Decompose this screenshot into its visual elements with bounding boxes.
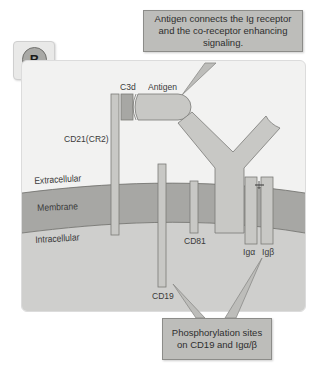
antigen-shape <box>135 94 191 120</box>
label-membrane: Membrane <box>37 200 78 213</box>
ig-alpha-rod <box>245 177 257 244</box>
label-ig-alpha: Igα <box>243 246 255 257</box>
bottom-callout-pointer-igab <box>225 258 262 318</box>
label-antigen: Antigen <box>148 81 177 92</box>
top-callout-pointer <box>182 63 216 95</box>
label-cd19: CD19 <box>152 290 174 301</box>
cd81-rod <box>190 181 198 233</box>
label-ig-beta: Igβ <box>262 246 274 257</box>
label-c3d: C3d <box>120 81 136 92</box>
label-cd81: CD81 <box>184 235 206 246</box>
cd21-rod <box>111 94 119 235</box>
cd19-rod <box>158 164 166 287</box>
top-callout-text: Antigen connects the Ig receptor and the… <box>144 13 302 49</box>
bottom-callout-pointer-cd19 <box>173 284 205 318</box>
label-cd21: CD21(CR2) <box>64 133 109 144</box>
c3d-block <box>121 94 133 120</box>
ig-beta-rod <box>261 177 273 244</box>
bottom-callout-text: Phosphorylation sites on CD19 and Igα/β <box>163 327 271 351</box>
top-callout: Antigen connects the Ig receptor and the… <box>143 10 303 52</box>
bottom-callout: Phosphorylation sites on CD19 and Igα/β <box>162 318 272 360</box>
